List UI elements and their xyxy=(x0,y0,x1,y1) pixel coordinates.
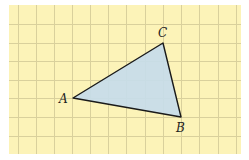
vertex-label-a: A xyxy=(58,92,68,106)
vertex-label-c: C xyxy=(158,26,167,40)
vertex-label-b: B xyxy=(175,121,185,135)
grid-figure: A B C xyxy=(0,0,249,160)
triangle-diagram: A B C xyxy=(0,0,249,160)
